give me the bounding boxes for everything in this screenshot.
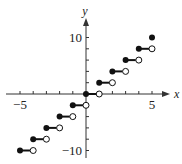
x-tick-label: −5 (13, 97, 27, 112)
closed-endpoint (96, 80, 102, 86)
open-endpoint (70, 114, 76, 120)
closed-endpoint (30, 136, 36, 142)
open-endpoint (109, 80, 115, 86)
open-endpoint (83, 102, 89, 108)
closed-endpoint (57, 114, 63, 120)
open-endpoint (123, 68, 129, 74)
x-axis-arrow-icon (162, 91, 170, 97)
open-endpoint (43, 136, 49, 142)
closed-endpoint (109, 68, 115, 74)
y-axis-arrow-icon (83, 18, 89, 26)
closed-endpoint (17, 148, 23, 154)
x-tick-label: 5 (149, 97, 156, 112)
closed-endpoint (43, 125, 49, 131)
x-axis-label: x (173, 87, 180, 101)
closed-endpoint (136, 46, 142, 52)
open-endpoint (57, 125, 63, 131)
step-function-chart: −5510−10xy (0, 0, 182, 164)
closed-point (149, 35, 155, 41)
closed-endpoint (70, 102, 76, 108)
y-tick-label: 10 (69, 30, 82, 45)
y-axis-label: y (81, 4, 88, 18)
y-tick-label: −10 (62, 143, 82, 158)
plot-area: −5510−10xy (0, 0, 182, 164)
closed-endpoint (123, 57, 129, 63)
open-endpoint (136, 57, 142, 63)
open-endpoint (149, 46, 155, 52)
open-endpoint (30, 148, 36, 154)
closed-endpoint (83, 91, 89, 97)
open-endpoint (96, 91, 102, 97)
